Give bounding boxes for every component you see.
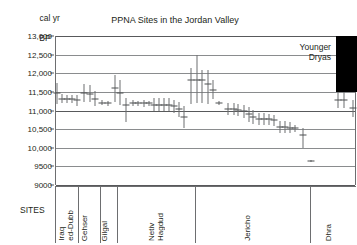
data-point-marker xyxy=(299,135,306,136)
y-axis-tick-label: 10,500 xyxy=(4,125,52,134)
younger-dryas-label: YoungerDryas xyxy=(300,42,331,62)
site-label-gilgal: Gilgal xyxy=(100,221,109,241)
site-label-dhra: Dhra xyxy=(324,224,333,241)
data-point-marker xyxy=(307,161,314,162)
site-label-iraq-ed-dubb: Iraq ed-Dubb xyxy=(57,210,75,241)
data-point-error-bar xyxy=(340,92,348,108)
y-axis-title-line1: cal yr xyxy=(40,13,60,23)
gridline xyxy=(56,111,355,112)
younger-dryas-label-line2: Dryas xyxy=(300,52,331,62)
data-point-error-bar xyxy=(349,100,357,117)
site-label-netiv-hagdud: Netiv Hagdud xyxy=(147,213,165,241)
y-axis-tick-label: 9000 xyxy=(4,181,52,190)
plot-area: 13,00012,50012,00011,50011,00010,50010,0… xyxy=(55,36,356,185)
site-separator xyxy=(310,187,311,243)
data-point-marker xyxy=(117,92,124,93)
error-bar-line xyxy=(191,68,192,104)
data-point-marker xyxy=(349,108,356,109)
y-axis-tick-label: 11,500 xyxy=(4,87,52,96)
data-point-marker xyxy=(340,100,347,101)
data-point-marker xyxy=(53,92,60,93)
error-bar-line xyxy=(202,70,203,104)
site-separator xyxy=(117,187,118,243)
data-point-error-bar xyxy=(299,128,307,148)
younger-dryas-bar xyxy=(336,36,357,92)
data-point-error-bar xyxy=(291,125,299,132)
data-point-error-bar xyxy=(104,101,112,105)
site-label-jericho: Jericho xyxy=(243,215,252,241)
younger-dryas-label-line1: Younger xyxy=(300,42,331,52)
gridline xyxy=(56,129,355,130)
sites-axis: Iraq ed-DubbGehserGilgalNetiv HagdudJeri… xyxy=(55,186,356,243)
y-axis-tick-label: 12,000 xyxy=(4,69,52,78)
gridline xyxy=(56,166,355,167)
data-point-marker xyxy=(92,98,99,99)
data-point-marker xyxy=(105,103,112,104)
error-bar-line xyxy=(302,128,303,148)
data-point-marker xyxy=(291,128,298,129)
data-point-marker xyxy=(216,103,223,104)
site-separator xyxy=(78,187,79,243)
site-label-gehser: Gehser xyxy=(80,215,89,241)
y-axis-tick-label: 11,000 xyxy=(4,106,52,115)
y-axis-tick-label: 10,000 xyxy=(4,143,52,152)
data-point-marker xyxy=(210,89,217,90)
data-point-error-bar xyxy=(307,160,315,161)
data-point-error-bar xyxy=(215,101,223,105)
data-point-error-bar xyxy=(209,80,217,98)
data-point-marker xyxy=(181,117,188,118)
gridline xyxy=(56,148,355,149)
gridline xyxy=(56,36,355,37)
x-axis-title: SITES xyxy=(20,205,45,215)
y-axis-tick-label: 9500 xyxy=(4,162,52,171)
site-separator xyxy=(195,187,196,243)
error-bar-line xyxy=(126,98,127,122)
data-point-error-bar xyxy=(180,106,188,128)
y-axis-tick-label: 12,500 xyxy=(4,50,52,59)
site-separator xyxy=(55,187,56,243)
chart-title: PPNA Sites in the Jordan Valley xyxy=(60,15,290,25)
y-axis-tick-label: 13,000 xyxy=(4,32,52,41)
